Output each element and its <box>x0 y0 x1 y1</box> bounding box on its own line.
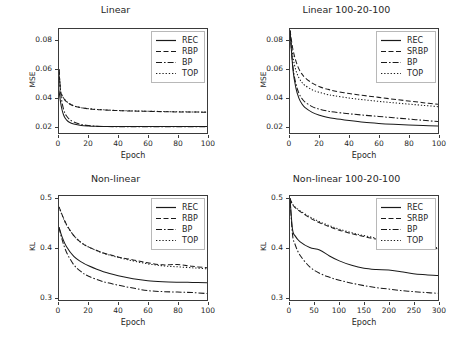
panel-title: Linear <box>0 4 231 15</box>
legend: RECRBPBPTOP <box>151 198 205 250</box>
legend-label: REC <box>407 202 423 213</box>
x-tick-label: 80 <box>163 306 193 315</box>
legend-item: SRBP <box>380 213 431 224</box>
legend-item: TOP <box>155 68 200 79</box>
x-tick-label: 100 <box>193 306 223 315</box>
legend-item: TOP <box>380 235 431 246</box>
legend-line-sample-dashed <box>380 47 402 56</box>
x-axis-label: Epoch <box>289 318 439 327</box>
legend-label: REC <box>182 35 198 46</box>
panel-linear: LinearMSE0.020.040.060.08020406080100Epo… <box>0 4 231 169</box>
x-tick-label: 20 <box>304 139 334 148</box>
y-tick-label: 0.02 <box>24 122 52 131</box>
panel-non-linear: Non-linearKL0.30.40.5020406080100EpochRE… <box>0 173 231 338</box>
legend-label: TOP <box>182 235 198 246</box>
x-tick-label: 100 <box>193 139 223 148</box>
legend-item: REC <box>155 35 200 46</box>
legend: RECSRBPBPTOP <box>376 31 436 83</box>
legend-line-sample-dotted <box>380 69 402 78</box>
legend-line-sample-dashdot <box>155 58 177 67</box>
x-tick-mark <box>414 302 415 305</box>
x-tick-mark <box>314 302 315 305</box>
panel-title: Linear 100-20-100 <box>231 4 462 15</box>
legend: RECRBPBPTOP <box>151 31 205 83</box>
x-tick-label: 60 <box>133 139 163 148</box>
legend-line-sample-dashed <box>380 214 402 223</box>
legend-label: TOP <box>407 68 423 79</box>
x-tick-label: 300 <box>424 306 454 315</box>
legend-line-sample-dashdot <box>155 225 177 234</box>
legend-label: BP <box>407 57 417 68</box>
legend-line-sample-dotted <box>380 236 402 245</box>
x-tick-mark <box>339 302 340 305</box>
legend-label: SRBP <box>407 213 428 224</box>
legend-line-sample-dashed <box>155 47 177 56</box>
legend-label: TOP <box>407 235 423 246</box>
legend-item: BP <box>155 57 200 68</box>
x-tick-mark <box>379 135 380 138</box>
x-axis-label: Epoch <box>289 151 439 160</box>
y-tick-label: 0.3 <box>24 293 52 302</box>
legend-item: BP <box>155 224 200 235</box>
x-tick-label: 100 <box>424 139 454 148</box>
x-tick-mark <box>148 135 149 138</box>
x-tick-label: 0 <box>43 306 73 315</box>
y-tick-label: 0.5 <box>24 193 52 202</box>
x-tick-mark <box>289 135 290 138</box>
legend-item: TOP <box>380 68 431 79</box>
figure-canvas: LinearMSE0.020.040.060.08020406080100Epo… <box>0 0 462 338</box>
x-tick-label: 0 <box>274 139 304 148</box>
x-tick-mark <box>88 302 89 305</box>
x-tick-label: 80 <box>163 139 193 148</box>
y-tick-label: 0.04 <box>255 93 283 102</box>
legend-line-sample-dashdot <box>380 225 402 234</box>
panel-non-linear-100-20-100: Non-linear 100-20-100KL0.30.40.505010015… <box>231 173 462 338</box>
legend-line-sample-solid <box>155 36 177 45</box>
x-tick-mark <box>208 135 209 138</box>
legend-label: SRBP <box>407 46 428 57</box>
x-tick-label: 20 <box>73 306 103 315</box>
x-tick-label: 40 <box>103 139 133 148</box>
x-tick-mark <box>389 302 390 305</box>
legend-line-sample-dotted <box>155 69 177 78</box>
x-tick-mark <box>289 302 290 305</box>
x-tick-mark <box>178 302 179 305</box>
legend-line-sample-solid <box>155 203 177 212</box>
x-tick-mark <box>439 302 440 305</box>
x-tick-mark <box>58 302 59 305</box>
x-tick-mark <box>118 135 119 138</box>
legend-item: BP <box>380 224 431 235</box>
legend-label: RBP <box>182 46 198 57</box>
x-tick-mark <box>88 135 89 138</box>
x-tick-mark <box>364 302 365 305</box>
x-tick-label: 40 <box>103 306 133 315</box>
legend-item: RBP <box>155 46 200 57</box>
x-tick-label: 20 <box>73 139 103 148</box>
legend-label: BP <box>407 224 417 235</box>
y-tick-label: 0.4 <box>255 243 283 252</box>
legend-label: TOP <box>182 68 198 79</box>
panel-linear-100-20-100: Linear 100-20-100MSE0.020.040.060.080204… <box>231 4 462 169</box>
legend-line-sample-dashed <box>155 214 177 223</box>
y-tick-label: 0.02 <box>255 122 283 131</box>
y-tick-label: 0.08 <box>255 35 283 44</box>
y-tick-label: 0.06 <box>24 64 52 73</box>
x-tick-label: 0 <box>43 139 73 148</box>
x-tick-mark <box>439 135 440 138</box>
y-tick-label: 0.08 <box>24 35 52 44</box>
legend-item: BP <box>380 57 431 68</box>
legend-item: REC <box>155 202 200 213</box>
legend-line-sample-solid <box>380 36 402 45</box>
legend-label: BP <box>182 224 192 235</box>
panel-title: Non-linear 100-20-100 <box>231 173 462 184</box>
legend-label: REC <box>182 202 198 213</box>
x-tick-mark <box>58 135 59 138</box>
legend-label: REC <box>407 35 423 46</box>
legend-item: RBP <box>155 213 200 224</box>
x-tick-label: 40 <box>334 139 364 148</box>
x-axis-label: Epoch <box>58 151 208 160</box>
legend-item: TOP <box>155 235 200 246</box>
y-tick-label: 0.3 <box>255 293 283 302</box>
series-line-rec <box>59 90 207 126</box>
legend-item: REC <box>380 202 431 213</box>
